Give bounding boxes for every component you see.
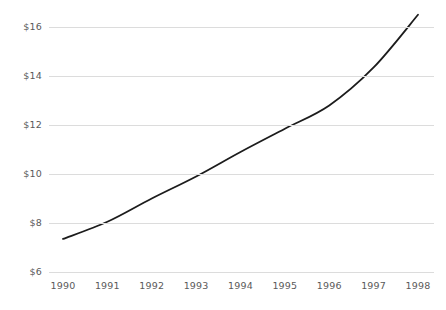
y-tick-label: $8 (2, 218, 42, 228)
x-tick-label: 1992 (130, 280, 174, 291)
line-chart: $6$8$10$12$14$16 19901991199219931994199… (0, 0, 446, 310)
series-line (49, 27, 434, 272)
gridline (49, 76, 434, 77)
y-axis: $6$8$10$12$14$16 (0, 27, 42, 272)
x-axis: 199019911992199319941995199619971998 (49, 280, 434, 296)
y-tick-label: $10 (2, 169, 42, 179)
gridline (49, 272, 434, 273)
gridline (49, 27, 434, 28)
gridline (49, 125, 434, 126)
x-tick-label: 1998 (396, 280, 440, 291)
y-tick-label: $14 (2, 71, 42, 81)
series-path (63, 15, 418, 239)
x-tick-label: 1990 (41, 280, 85, 291)
y-tick-label: $16 (2, 22, 42, 32)
gridline (49, 174, 434, 175)
x-tick-label: 1993 (174, 280, 218, 291)
y-tick-label: $12 (2, 120, 42, 130)
x-tick-label: 1996 (307, 280, 351, 291)
x-tick-label: 1994 (219, 280, 263, 291)
plot-area (49, 27, 434, 272)
x-tick-label: 1997 (352, 280, 396, 291)
x-tick-label: 1995 (263, 280, 307, 291)
gridline (49, 223, 434, 224)
x-tick-label: 1991 (85, 280, 129, 291)
y-tick-label: $6 (2, 267, 42, 277)
